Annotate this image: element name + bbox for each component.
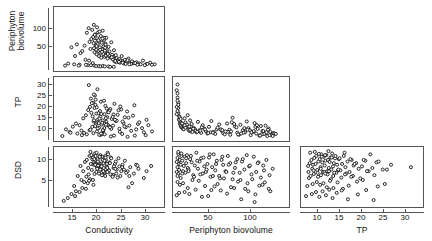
y-tick-dsd-5: 5 — [28, 176, 46, 185]
x-tick-mark-tp-30 — [405, 209, 406, 212]
x-axis-title-conductivity: Conductivity — [53, 225, 165, 235]
y-tick-mark-tp-30 — [49, 84, 52, 85]
y-tick-mark-tp-25 — [49, 95, 52, 96]
y-tick-tp-30: 30 — [28, 80, 46, 89]
y-tick-dsd-10: 10 — [28, 155, 46, 164]
x-tick-mark-periphyton-50 — [208, 209, 209, 212]
y-tick-mark-dsd-10 — [49, 159, 52, 160]
scatter-tp-vs-conductivity — [54, 77, 164, 141]
panel-dsd-vs-periphyton — [172, 146, 290, 208]
x-tick-periphyton-100: 100 — [240, 213, 260, 222]
y-axis-title-tp-text: TP — [14, 82, 23, 122]
y-axis-title-periphyton: Periphyton biovolume — [8, 0, 26, 62]
x-tick-mark-conductivity-30 — [145, 209, 146, 212]
panel-tp-vs-conductivity — [53, 76, 165, 142]
y-tick-mark-periphyton-100 — [49, 28, 52, 29]
scatter-dsd-vs-periphyton — [173, 147, 289, 207]
x-tick-mark-conductivity-25 — [121, 209, 122, 212]
x-tick-conductivity-25: 25 — [111, 213, 131, 222]
x-tick-mark-tp-15 — [339, 209, 340, 212]
y-tick-periphyton-100: 100 — [30, 24, 46, 33]
x-axis-title-periphyton: Periphyton biovolume — [172, 225, 290, 235]
x-tick-tp-30: 30 — [395, 213, 415, 222]
y-axis-line-tp — [48, 78, 49, 140]
x-tick-tp-15: 15 — [329, 213, 349, 222]
x-tick-tp-20: 20 — [351, 213, 371, 222]
y-tick-mark-tp-10 — [49, 128, 52, 129]
panel-dsd-vs-tp — [300, 146, 424, 208]
scatter-dsd-vs-conductivity — [54, 147, 164, 207]
scatter-dsd-vs-tp — [301, 147, 423, 207]
y-axis-title-dsd: DSD — [14, 148, 23, 192]
x-tick-conductivity-20: 20 — [86, 213, 106, 222]
x-tick-conductivity-15: 15 — [62, 213, 82, 222]
y-axis-line-dsd — [48, 147, 49, 207]
panel-tp-vs-periphyton — [172, 76, 290, 142]
y-tick-mark-tp-15 — [49, 117, 52, 118]
y-tick-mark-tp-20 — [49, 106, 52, 107]
y-tick-periphyton-50: 50 — [30, 42, 46, 51]
x-tick-mark-conductivity-20 — [96, 209, 97, 212]
x-tick-mark-conductivity-15 — [72, 209, 73, 212]
x-tick-periphyton-50: 50 — [198, 213, 218, 222]
x-tick-mark-tp-20 — [361, 209, 362, 212]
x-tick-mark-tp-25 — [383, 209, 384, 212]
y-tick-tp-15: 15 — [28, 113, 46, 122]
panel-dsd-vs-conductivity — [53, 146, 165, 208]
scatter-tp-vs-periphyton — [173, 77, 289, 141]
scatter-periphyton-vs-conductivity — [54, 7, 164, 71]
y-axis-title-periphyton-line2: biovolume — [17, 0, 26, 62]
y-tick-tp-10: 10 — [28, 124, 46, 133]
panel-periphyton-vs-conductivity — [53, 6, 165, 72]
x-tick-mark-periphyton-100 — [250, 209, 251, 212]
x-tick-conductivity-30: 30 — [135, 213, 155, 222]
x-axis-title-tp: TP — [300, 225, 424, 235]
y-axis-title-tp: TP — [14, 82, 23, 122]
x-tick-tp-10: 10 — [307, 213, 327, 222]
x-tick-mark-tp-10 — [317, 209, 318, 212]
x-tick-tp-25: 25 — [373, 213, 393, 222]
y-tick-tp-20: 20 — [28, 102, 46, 111]
y-axis-line-periphyton — [48, 8, 49, 70]
scatterplot-matrix-figure: Periphyton biovolume 100 50 TP 30 25 20 … — [0, 0, 432, 241]
x-axis-line-periphyton — [172, 212, 290, 213]
y-tick-tp-25: 25 — [28, 91, 46, 100]
y-tick-mark-dsd-5 — [49, 180, 52, 181]
y-tick-mark-periphyton-50 — [49, 46, 52, 47]
y-axis-title-dsd-text: DSD — [14, 148, 23, 192]
